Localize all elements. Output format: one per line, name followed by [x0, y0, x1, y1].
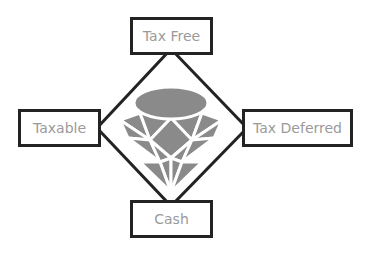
node-taxable: Taxable	[18, 109, 101, 147]
node-tax-deferred: Tax Deferred	[242, 109, 353, 147]
gem-icon	[120, 87, 222, 192]
diagram-canvas: Tax Free Taxable Tax Deferred Cash	[0, 0, 371, 253]
node-label: Cash	[154, 211, 189, 227]
node-cash: Cash	[130, 200, 213, 238]
node-tax-free: Tax Free	[130, 17, 213, 55]
node-label: Taxable	[33, 120, 86, 136]
node-label: Tax Deferred	[253, 120, 342, 136]
node-label: Tax Free	[143, 28, 200, 44]
